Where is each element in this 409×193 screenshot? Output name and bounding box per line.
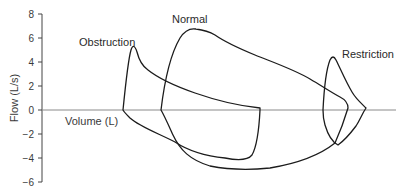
- annotation-normal: Normal: [172, 13, 207, 25]
- y-tick-labels: 8 6 4 2 0 −2 −4 −6: [23, 9, 35, 188]
- tick-label: 2: [28, 81, 34, 92]
- tick-label: −4: [23, 153, 35, 164]
- restriction-curve: [323, 57, 366, 145]
- tick-label: −2: [23, 129, 35, 140]
- y-ticks: [38, 14, 42, 182]
- obstruction-curve: [123, 46, 260, 159]
- x-axis-title: Volume (L): [65, 115, 118, 127]
- annotation-obstruction: Obstruction: [79, 36, 135, 48]
- tick-label: 8: [28, 9, 34, 20]
- tick-label: 4: [28, 57, 34, 68]
- tick-label: 0: [28, 105, 34, 116]
- annotation-restriction: Restriction: [342, 48, 394, 60]
- y-axis-title: Flow (L/s): [8, 74, 20, 122]
- tick-label: −6: [23, 177, 35, 188]
- flow-volume-chart: 8 6 4 2 0 −2 −4 −6 Flow (L/s) Volume (L)…: [0, 0, 409, 193]
- tick-label: 6: [28, 33, 34, 44]
